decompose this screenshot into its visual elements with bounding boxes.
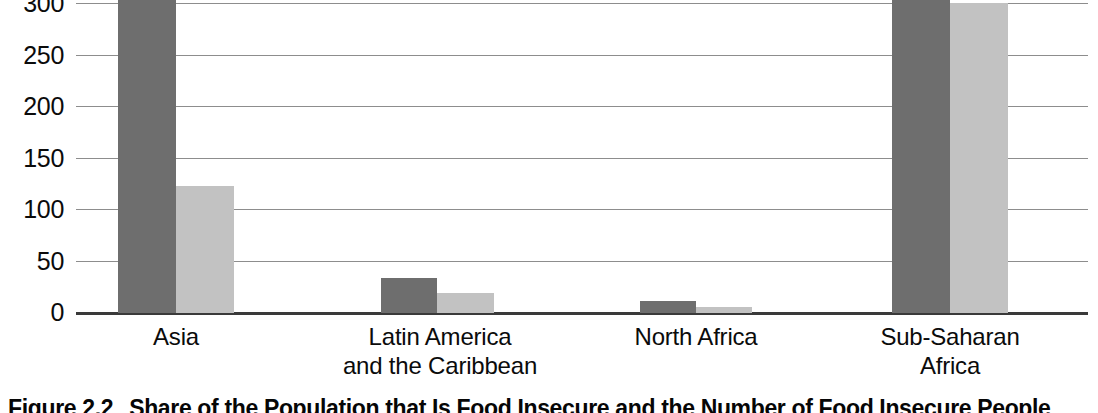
bar-asia-light [176, 186, 234, 313]
figure-caption-text: Share of the Population that Is Food Ins… [129, 396, 1050, 413]
figure-caption-number: Figure 2.2 [8, 396, 113, 413]
bar-latin-america-light [437, 293, 494, 313]
bar-sub-saharan-africa-light [950, 3, 1008, 313]
bar-latin-america-dark [381, 278, 437, 313]
chart-plot-area: 300 250 200 150 100 50 0 [0, 0, 1098, 316]
bar-sub-saharan-africa-dark [892, 0, 950, 313]
category-label-sub-saharan-africa-line2: Africa [840, 351, 1060, 380]
category-label-north-africa: North Africa [586, 322, 806, 351]
category-label-sub-saharan-africa-line1: Sub-Saharan [880, 323, 1019, 350]
bar-north-africa-dark [640, 301, 696, 313]
category-label-latin-america-line1: Latin America [369, 323, 512, 350]
figure-caption-clip: Figure 2.2Share of the Population that I… [0, 396, 1098, 413]
figure-caption: Figure 2.2Share of the Population that I… [8, 396, 1098, 413]
category-label-latin-america-line2: and the Caribbean [322, 351, 558, 380]
category-label-asia-line1: Asia [153, 323, 199, 350]
category-label-latin-america: Latin America and the Caribbean [322, 322, 558, 380]
figure-container: 300 250 200 150 100 50 0 Asia Lati [0, 0, 1098, 413]
x-axis-category-labels: Asia Latin America and the Caribbean Nor… [0, 318, 1098, 390]
bar-north-africa-light [696, 307, 752, 313]
bar-asia-dark [118, 0, 176, 313]
category-label-sub-saharan-africa: Sub-Saharan Africa [840, 322, 1060, 380]
category-label-asia: Asia [76, 322, 276, 351]
bars-layer [0, 0, 1098, 313]
category-label-north-africa-line1: North Africa [635, 323, 758, 350]
